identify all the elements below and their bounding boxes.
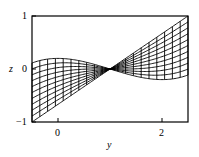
y-axis-label: y xyxy=(107,140,111,150)
wireframe-plot xyxy=(0,0,199,157)
y-tick-label-2: 2 xyxy=(159,128,164,138)
z-tick-label-minus-1: −1 xyxy=(16,117,27,127)
y-tick-label-0: 0 xyxy=(55,128,60,138)
z-tick-label-1: 1 xyxy=(22,11,27,21)
z-tick-label-0: 0 xyxy=(22,64,27,74)
z-axis-label: z xyxy=(9,64,13,74)
surface-mesh xyxy=(32,16,188,122)
